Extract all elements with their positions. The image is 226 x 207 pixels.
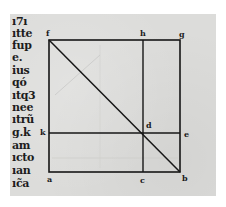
geometric-diagram (0, 0, 226, 207)
faint-construction-line (55, 55, 100, 95)
label-h: h (140, 29, 146, 38)
label-k: k (40, 128, 46, 137)
label-a: a (47, 175, 52, 184)
label-c: c (140, 176, 145, 185)
label-e: e (184, 130, 189, 139)
label-g: g (179, 30, 185, 39)
label-d: d (146, 121, 152, 130)
label-b: b (182, 174, 188, 183)
label-f: f (46, 29, 49, 38)
diagonal-fb (49, 40, 180, 172)
